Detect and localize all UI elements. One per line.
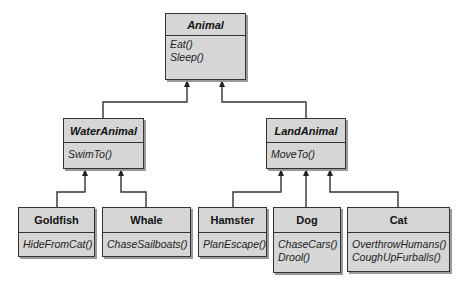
method: Drool() bbox=[278, 251, 336, 264]
class-name: Cat bbox=[348, 208, 449, 233]
method-list: MoveTo() bbox=[267, 143, 345, 163]
class-dog: Dog ChaseCars() Drool() bbox=[273, 207, 341, 273]
method: Eat() bbox=[170, 38, 241, 51]
method-list: SwimTo() bbox=[64, 143, 143, 163]
class-name: Dog bbox=[274, 208, 340, 233]
method-list: ChaseCars() Drool() bbox=[274, 233, 340, 266]
class-landanimal: LandAnimal MoveTo() bbox=[266, 118, 346, 169]
class-wateranimal: WaterAnimal SwimTo() bbox=[63, 118, 144, 169]
method-list: ChaseSailboats() bbox=[103, 233, 190, 253]
class-whale: Whale ChaseSailboats() bbox=[102, 207, 191, 257]
class-name: Animal bbox=[166, 14, 245, 36]
method: OverthrowHumans() bbox=[352, 238, 445, 251]
class-name: WaterAnimal bbox=[64, 119, 143, 143]
method-list: HideFromCat() bbox=[19, 233, 94, 253]
method: ChaseCars() bbox=[278, 238, 336, 251]
method: SwimTo() bbox=[68, 148, 139, 161]
class-cat: Cat OverthrowHumans() CoughUpFurballs() bbox=[347, 207, 450, 272]
class-name: Hamster bbox=[199, 208, 266, 233]
method: CoughUpFurballs() bbox=[352, 251, 445, 264]
method-list: OverthrowHumans() CoughUpFurballs() bbox=[348, 233, 449, 266]
class-animal: Animal Eat() Sleep() bbox=[165, 13, 246, 80]
class-name: LandAnimal bbox=[267, 119, 345, 143]
method: MoveTo() bbox=[271, 148, 341, 161]
method: HideFromCat() bbox=[23, 238, 90, 251]
method: Sleep() bbox=[170, 51, 241, 64]
method-list: Eat() Sleep() bbox=[166, 36, 245, 66]
method: ChaseSailboats() bbox=[107, 238, 186, 251]
class-name: Whale bbox=[103, 208, 190, 233]
class-name: Goldfish bbox=[19, 208, 94, 233]
class-goldfish: Goldfish HideFromCat() bbox=[18, 207, 95, 257]
class-hamster: Hamster PlanEscape() bbox=[198, 207, 267, 257]
method-list: PlanEscape() bbox=[199, 233, 266, 253]
method: PlanEscape() bbox=[203, 238, 262, 251]
